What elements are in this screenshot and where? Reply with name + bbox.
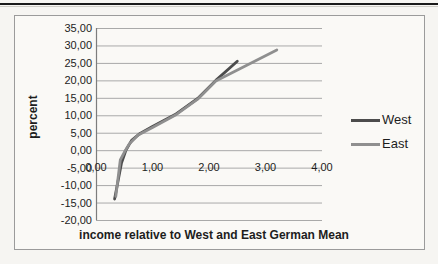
y-tick-label: 35,00 bbox=[64, 22, 92, 34]
x-tick-label: 2,00 bbox=[198, 161, 219, 173]
legend-item-west: West bbox=[351, 113, 431, 127]
y-tick-label: -10,00 bbox=[61, 179, 92, 191]
x-tick-label: 3,00 bbox=[255, 161, 276, 173]
legend-label-east: East bbox=[382, 137, 408, 151]
y-tick-label: 25,00 bbox=[64, 57, 92, 69]
y-tick-label: 10,00 bbox=[64, 109, 92, 121]
legend-label-west: West bbox=[382, 113, 411, 127]
x-tick-label: 1,00 bbox=[142, 161, 163, 173]
x-tick-label: 4,00 bbox=[311, 161, 332, 173]
y-tick-label: 0,00 bbox=[71, 144, 92, 156]
east-line-swatch bbox=[351, 143, 380, 146]
y-tick-label: -15,00 bbox=[61, 197, 92, 209]
y-tick-label: 15,00 bbox=[64, 92, 92, 104]
line-chart: 35,0030,0025,0020,0015,0010,005,000,00-5… bbox=[0, 0, 438, 264]
y-tick-label: 30,00 bbox=[64, 39, 92, 51]
y-tick-label: 20,00 bbox=[64, 74, 92, 86]
series-line-west bbox=[115, 61, 238, 199]
legend-item-east: East bbox=[351, 137, 431, 151]
y-tick-label: -20,00 bbox=[61, 214, 92, 226]
y-tick-label: 5,00 bbox=[71, 127, 92, 139]
y-axis-title: percent bbox=[26, 95, 40, 138]
west-line-swatch bbox=[351, 119, 380, 122]
x-tick-label: 0,00 bbox=[85, 161, 106, 173]
x-axis-title: income relative to West and East German … bbox=[79, 228, 349, 242]
series-line-east bbox=[116, 50, 277, 196]
document-page: 35,0030,0025,0020,0015,0010,005,000,00-5… bbox=[0, 0, 438, 264]
